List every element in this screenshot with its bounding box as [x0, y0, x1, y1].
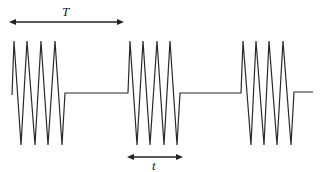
waveform-diagram: T t [0, 0, 322, 172]
period-label: T [62, 4, 70, 19]
period-arrow [9, 19, 124, 25]
burst-duration-label: t [152, 158, 156, 172]
waveform-line [12, 41, 313, 145]
